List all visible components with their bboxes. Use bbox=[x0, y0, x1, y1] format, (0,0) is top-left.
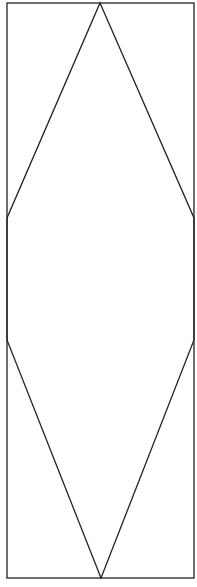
diagram-svg bbox=[0, 0, 197, 587]
outer-rectangle bbox=[7, 3, 194, 578]
diagram-canvas bbox=[0, 0, 197, 587]
inner-hexagon bbox=[7, 3, 194, 578]
